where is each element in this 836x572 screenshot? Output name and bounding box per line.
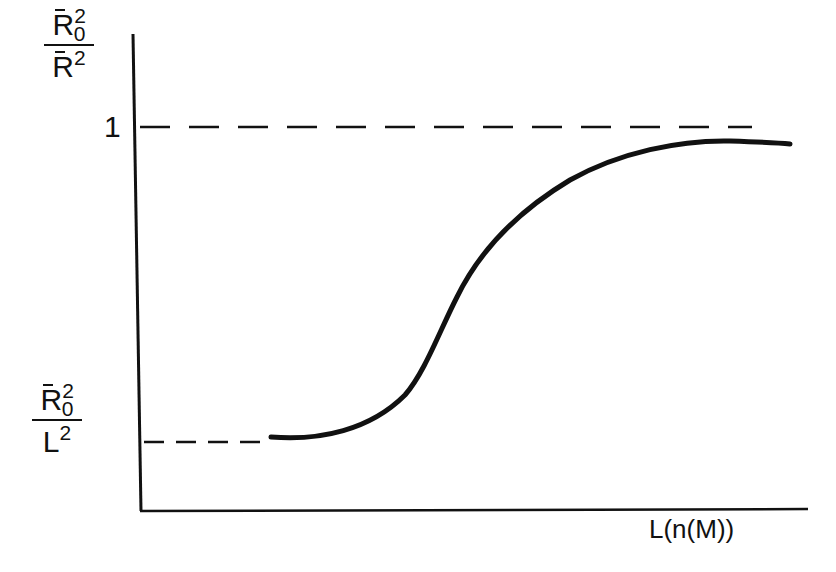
subscript: 0 — [74, 22, 86, 45]
upper-tick-label: 1 — [104, 110, 121, 144]
lower-tick-label: R20 L2 — [32, 383, 82, 459]
y-axis-label-numerator: R20 — [44, 8, 94, 42]
subscript: 0 — [62, 397, 74, 420]
lower-tick-denominator: L2 — [32, 425, 82, 459]
fraction-bar — [32, 419, 82, 421]
fraction-bar — [44, 44, 94, 46]
y-axis — [133, 34, 141, 511]
superscript: 2 — [74, 46, 86, 69]
r-bar-symbol: R — [52, 50, 74, 84]
l-symbol: L — [43, 425, 60, 458]
superscript: 2 — [60, 421, 72, 444]
r-bar-symbol: R — [52, 8, 74, 42]
lower-tick-numerator: R20 — [32, 383, 82, 417]
chart-canvas — [0, 0, 836, 572]
x-axis — [140, 509, 808, 511]
sigmoid-curve — [271, 141, 790, 438]
y-axis-label: R20 R2 — [44, 8, 94, 84]
r-bar-symbol: R — [40, 383, 62, 417]
x-axis-label: L(n(M)) — [649, 514, 734, 545]
y-axis-label-denominator: R2 — [44, 50, 94, 84]
